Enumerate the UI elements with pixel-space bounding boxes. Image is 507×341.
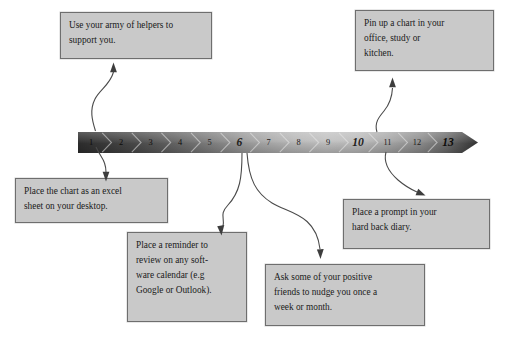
infographic-canvas: Use your army of helpers to support you.… <box>0 0 507 341</box>
connector-to-helpers <box>92 63 117 132</box>
callout-text: Ask some of your positive friends to nud… <box>274 270 417 315</box>
tick-label-9: 9 <box>326 138 330 147</box>
callout-text: Use your army of helpers to support you. <box>69 18 204 48</box>
callout-pin-up-a-chart: Pin up a chart in your office, study or … <box>355 10 494 71</box>
callout-place-a-prompt-in-diary: Place a prompt in your hard back diary. <box>343 199 490 249</box>
callout-place-chart-as-excel-sheet: Place the chart as an excel sheet on you… <box>15 178 168 223</box>
callout-text: Place a reminder to review on any soft- … <box>136 238 239 298</box>
connector-to-friends <box>247 153 324 259</box>
callout-place-a-reminder: Place a reminder to review on any soft- … <box>127 232 247 322</box>
tick-label-10: 10 <box>352 136 364 149</box>
callout-use-your-army-of-helpers: Use your army of helpers to support you. <box>60 12 212 59</box>
tick-label-2: 2 <box>119 138 123 147</box>
tick-label-13: 13 <box>442 136 454 149</box>
callout-text: Place a prompt in your hard back diary. <box>352 205 482 235</box>
tick-label-1: 1 <box>89 138 93 147</box>
tick-label-8: 8 <box>296 138 300 147</box>
timeline-svg: 1 2 3 4 5 6 7 8 9 10 11 12 13 <box>78 132 478 153</box>
tick-label-3: 3 <box>148 138 152 147</box>
tick-label-11: 11 <box>383 138 391 147</box>
tick-label-5: 5 <box>207 138 211 147</box>
connector-to-reminder <box>217 153 242 236</box>
callout-ask-positive-friends: Ask some of your positive friends to nud… <box>265 264 425 326</box>
callout-text: Pin up a chart in your office, study or … <box>364 16 486 61</box>
connector-to-pin-chart <box>376 78 396 133</box>
tick-label-12: 12 <box>413 138 421 147</box>
tick-label-6: 6 <box>237 136 243 149</box>
callout-text: Place the chart as an excel sheet on you… <box>24 184 160 214</box>
tick-label-7: 7 <box>266 138 270 147</box>
connector-to-diary <box>385 152 425 196</box>
timeline-bar: 1 2 3 4 5 6 7 8 9 10 11 12 13 <box>78 132 478 153</box>
